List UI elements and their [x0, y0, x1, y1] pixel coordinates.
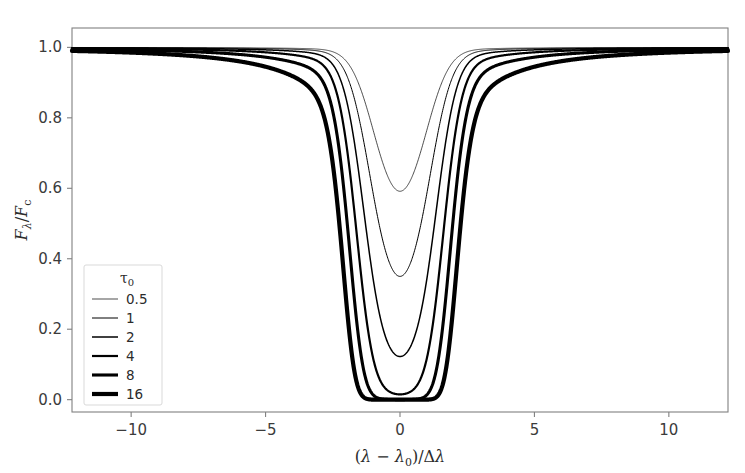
legend-label-16: 16 [126, 386, 143, 402]
x-tick-label: −5 [255, 421, 277, 439]
y-tick-label: 1.0 [38, 38, 62, 56]
legend-label-1: 1 [126, 310, 135, 326]
x-tick-label: 0 [395, 421, 405, 439]
figure-canvas: −10−505100.00.20.40.60.81.0(λ − λ0)/ΔλFλ… [0, 0, 745, 473]
y-tick-label: 0.2 [38, 320, 62, 338]
legend-label-2: 2 [126, 329, 135, 345]
legend-box [84, 265, 162, 405]
absorption-profile-chart: −10−505100.00.20.40.60.81.0(λ − λ0)/ΔλFλ… [0, 0, 745, 473]
x-tick-label: −10 [115, 421, 147, 439]
y-tick-label: 0.0 [38, 391, 62, 409]
y-tick-label: 0.4 [38, 250, 62, 268]
y-tick-label: 0.8 [38, 109, 62, 127]
legend-label-0.5: 0.5 [126, 291, 147, 307]
y-axis-title: Fλ/Fc [12, 200, 34, 242]
x-tick-label: 5 [530, 421, 540, 439]
x-tick-label: 10 [659, 421, 678, 439]
legend-label-4: 4 [126, 348, 135, 364]
y-tick-label: 0.6 [38, 179, 62, 197]
x-axis-title: (λ − λ0)/Δλ [355, 447, 445, 469]
legend-label-8: 8 [126, 367, 135, 383]
